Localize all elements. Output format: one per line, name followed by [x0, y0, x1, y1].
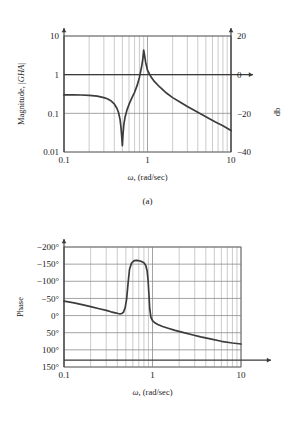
- bode-plot-figure: 0.11100.010.1110−40−20020ω, (rad/sec)Mag…: [0, 0, 295, 430]
- phase-plot-svg: 0.1110−200°−150°−100°−50°0°50°100°150°ω,…: [0, 215, 295, 415]
- x-tick-label: 10: [237, 370, 247, 380]
- magnitude-plot-panel: 0.11100.010.1110−40−20020ω, (rad/sec)Mag…: [0, 0, 295, 215]
- phase-plot-panel: 0.1110−200°−150°−100°−50°0°50°100°150°ω,…: [0, 215, 295, 430]
- x-tick-label: 0.1: [58, 155, 69, 165]
- y-tick-label: −150°: [37, 259, 60, 269]
- y-tick-label: 1: [55, 70, 60, 80]
- x-tick-label: 10: [227, 155, 237, 165]
- secondary-y-tick-label: −40: [237, 147, 252, 157]
- y-tick-label: 150°: [42, 362, 60, 372]
- y-tick-label: −50°: [41, 294, 59, 304]
- x-axis-arrow: [64, 358, 271, 363]
- y-tick-label: 0.01: [43, 147, 59, 157]
- secondary-y-axis-arrow: [229, 28, 234, 152]
- y-tick-label: 0°: [51, 311, 60, 321]
- y-tick-label: 10: [50, 31, 60, 41]
- secondary-y-tick-label: 20: [237, 31, 247, 41]
- y-axis-label: Phase: [15, 297, 25, 317]
- panel-a-caption: (a): [0, 196, 295, 206]
- y-tick-label: 100°: [42, 345, 60, 355]
- y-axis-label: Magnitude, |GHA|: [16, 63, 26, 125]
- secondary-y-axis-label: db: [272, 108, 282, 117]
- x-tick-label: 1: [150, 370, 155, 380]
- secondary-y-tick-label: −20: [237, 109, 252, 119]
- x-axis-label: ω, (rad/sec): [133, 387, 173, 397]
- y-axis-arrow: [62, 239, 67, 367]
- y-axis-arrow: [62, 28, 67, 152]
- y-tick-label: 0.1: [48, 109, 59, 119]
- y-tick-label: −100°: [37, 276, 60, 286]
- x-axis-arrow: [64, 72, 253, 77]
- x-tick-label: 1: [145, 155, 150, 165]
- magnitude-plot-svg: 0.11100.010.1110−40−20020ω, (rad/sec)Mag…: [0, 0, 295, 200]
- secondary-y-tick-label: 0: [237, 70, 242, 80]
- x-tick-label: 0.1: [58, 370, 69, 380]
- y-tick-label: −200°: [37, 242, 60, 252]
- x-axis-label: ω, (rad/sec): [128, 172, 168, 182]
- y-tick-label: 50°: [46, 328, 59, 338]
